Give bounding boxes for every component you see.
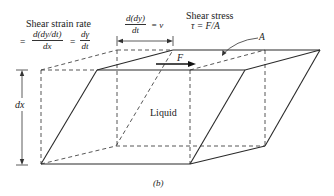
figure-caption: (b) [153, 179, 164, 188]
gamma-rate-denominator: dt [82, 41, 89, 51]
force-label: F [177, 53, 183, 63]
area-label: A [259, 33, 265, 43]
height-label: dx [15, 100, 24, 110]
strain-rate-fraction: d(dy/dt) dx [32, 30, 63, 51]
gamma-rate-fraction: dγ dt [80, 30, 90, 51]
area-leader-line [222, 38, 258, 55]
strain-rate-numerator: d(dy/dt) [32, 30, 63, 41]
velocity-numerator: d(dy) [125, 14, 146, 25]
equals-sign: = [70, 38, 75, 48]
force-arrow [156, 61, 196, 67]
shear-stress-formula: τ = F/A [191, 22, 220, 32]
velocity-fraction: d(dy) dt [125, 14, 146, 35]
gamma-rate-numerator: dγ [80, 30, 90, 41]
dx-dimension-arrow [16, 70, 28, 165]
shear-flow-diagram: Shear strain rate = d(dy/dt) dx = dγ dt … [0, 0, 334, 196]
shear-stress-title: Shear stress [186, 11, 234, 21]
velocity-dimension-arrow [117, 36, 173, 46]
deformed-element-outline [41, 50, 320, 164]
shear-strain-rate-title: Shear strain rate [26, 19, 91, 29]
velocity-rhs: = v [151, 21, 163, 30]
fluid-label: Liquid [150, 108, 177, 118]
equals-sign: = [20, 38, 25, 48]
velocity-denominator: dt [132, 25, 139, 35]
strain-rate-denominator: dx [43, 41, 52, 51]
